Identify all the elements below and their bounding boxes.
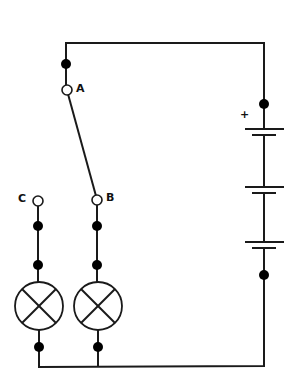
junction-dot xyxy=(33,221,43,231)
battery-plus-label: + xyxy=(240,108,249,121)
junction-dot xyxy=(61,59,71,69)
circuit-diagram: + A B C xyxy=(0,0,305,384)
junction-dot xyxy=(34,342,44,352)
terminal-b xyxy=(92,195,102,205)
terminal-c xyxy=(33,196,43,206)
top-wire xyxy=(66,43,264,129)
lamp-2 xyxy=(74,282,122,330)
terminal-a xyxy=(62,85,72,95)
junction-dot xyxy=(33,260,43,270)
junction-dot xyxy=(259,99,269,109)
junction-dot xyxy=(92,260,102,270)
terminal-c-label: C xyxy=(18,192,26,205)
lamp-1 xyxy=(15,282,63,330)
terminal-b-label: B xyxy=(106,191,114,204)
junction-dot xyxy=(92,221,102,231)
bottom-wire xyxy=(39,248,264,367)
junction-dot xyxy=(259,270,269,280)
junction-dot xyxy=(93,342,103,352)
terminal-a-label: A xyxy=(76,82,85,95)
switch-arm xyxy=(68,94,96,196)
